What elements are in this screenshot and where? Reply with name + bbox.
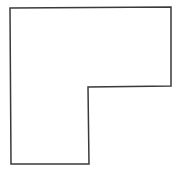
l-shape-diagram	[0, 0, 179, 170]
l-shape-outline	[10, 7, 171, 164]
diagram-canvas	[0, 0, 179, 170]
